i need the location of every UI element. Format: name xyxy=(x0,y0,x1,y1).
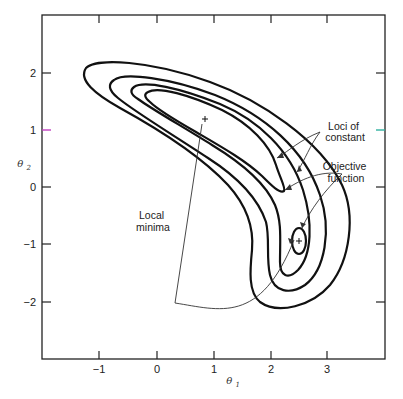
contour-plot: −1 0 1 2 3 2 1 0 −1 −2 θ 1 θ 2 xyxy=(0,0,403,399)
x-axis-label: θ 1 xyxy=(226,375,240,389)
svg-text:1: 1 xyxy=(211,363,217,375)
contour-4 xyxy=(145,90,284,192)
local-minima-markers xyxy=(202,116,302,244)
y-axis-ticks xyxy=(42,73,385,302)
y-tick-labels: 2 1 0 −1 −2 xyxy=(23,67,36,308)
svg-text:2: 2 xyxy=(30,67,36,79)
minimum-marker-2 xyxy=(296,238,302,244)
contour-lines xyxy=(84,62,350,308)
contour-3 xyxy=(131,84,309,275)
svg-text:−1: −1 xyxy=(93,363,106,375)
x-tick-labels: −1 0 1 2 3 xyxy=(93,363,330,375)
svg-text:0: 0 xyxy=(154,363,160,375)
plot-frame xyxy=(42,15,385,359)
contour-outer xyxy=(84,62,350,308)
svg-text:3: 3 xyxy=(324,363,330,375)
annotation-loci: Loci of constant xyxy=(325,120,365,143)
annotation-objective: Objective function xyxy=(323,160,370,184)
svg-text:1: 1 xyxy=(30,124,36,136)
svg-text:2: 2 xyxy=(268,363,274,375)
minimum-marker-1 xyxy=(202,116,208,122)
svg-text:−1: −1 xyxy=(23,238,36,250)
annotation-local-minima: Local minima xyxy=(136,209,170,233)
y-axis-label: θ 2 xyxy=(17,158,31,172)
svg-text:−2: −2 xyxy=(23,296,36,308)
svg-text:0: 0 xyxy=(30,181,36,193)
